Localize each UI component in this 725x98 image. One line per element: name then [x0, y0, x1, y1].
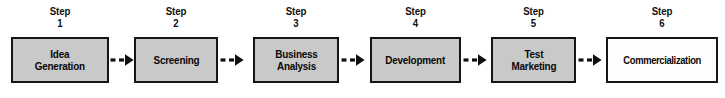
connector-arrow-1-2 [110, 53, 134, 67]
process-box-label-6: Commercialization [621, 54, 702, 67]
step-caption-2: Step 2 [137, 6, 214, 29]
process-box-label-3: Business Analysis [273, 48, 319, 73]
step-caption-word-5: Step [494, 6, 572, 18]
step-caption-word-6: Step [610, 6, 713, 18]
step-caption-6: Step 6 [610, 6, 713, 29]
step-caption-1: Step 1 [15, 6, 105, 29]
connector-arrow-5-6 [578, 53, 602, 67]
process-box-test-marketing[interactable]: Test Marketing [491, 37, 576, 83]
connector-arrow-3-4 [341, 53, 365, 67]
step-caption-number-2: 2 [137, 18, 214, 30]
connector-arrow-2-3 [220, 53, 244, 67]
step-caption-number-3: 3 [256, 18, 335, 30]
connector-arrow-4-5 [463, 53, 487, 67]
step-caption-number-6: 6 [610, 18, 713, 30]
step-caption-5: Step 5 [494, 6, 572, 29]
process-box-idea-generation[interactable]: Idea Generation [11, 37, 109, 83]
process-box-label-4: Development [384, 54, 447, 67]
process-box-screening[interactable]: Screening [134, 37, 218, 83]
step-caption-number-1: 1 [15, 18, 105, 30]
process-box-development[interactable]: Development [370, 37, 461, 83]
step-caption-4: Step 4 [374, 6, 458, 29]
step-caption-number-5: 5 [494, 18, 572, 30]
process-box-business-analysis[interactable]: Business Analysis [253, 37, 339, 83]
step-caption-word-4: Step [374, 6, 458, 18]
process-flow-diagram: Step 1 Idea Generation Step 2 Screening … [0, 0, 725, 98]
process-box-label-1: Idea Generation [33, 48, 87, 73]
process-box-label-2: Screening [151, 54, 200, 67]
process-box-commercialization[interactable]: Commercialization [606, 37, 718, 83]
process-box-label-5: Test Marketing [509, 48, 557, 73]
step-caption-3: Step 3 [256, 6, 335, 29]
step-caption-word-3: Step [256, 6, 335, 18]
step-caption-word-1: Step [15, 6, 105, 18]
step-caption-word-2: Step [137, 6, 214, 18]
step-caption-number-4: 4 [374, 18, 458, 30]
